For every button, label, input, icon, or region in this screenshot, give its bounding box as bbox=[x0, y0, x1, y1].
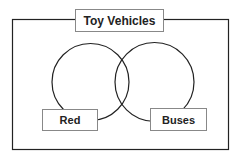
title-box: Toy Vehicles bbox=[75, 9, 164, 32]
set-box-red: Red bbox=[42, 109, 98, 131]
set-label-buses: Buses bbox=[162, 114, 195, 126]
set-box-buses: Buses bbox=[150, 108, 207, 131]
set-label-red: Red bbox=[60, 114, 81, 126]
title-label: Toy Vehicles bbox=[84, 14, 156, 28]
